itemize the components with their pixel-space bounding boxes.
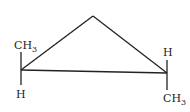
left-bottom-label: H <box>16 88 26 101</box>
bond-apex-right <box>93 16 167 73</box>
left-top-label: CH3 <box>14 39 37 54</box>
right-top-label: H <box>163 46 173 59</box>
bond-left-right <box>21 70 167 73</box>
cyclopropane-structure: CH3 H H CH3 <box>0 0 190 112</box>
right-bottom-label: CH3 <box>163 92 186 107</box>
